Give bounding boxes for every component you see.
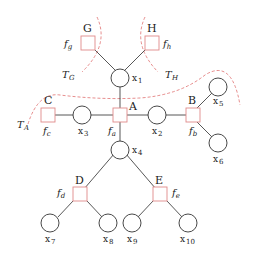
svg-text:A: A <box>128 100 138 113</box>
svg-text:5: 5 <box>219 100 223 108</box>
factor-node-h: H fh <box>145 22 171 51</box>
variable-node-x3: x 3 <box>73 106 91 138</box>
svg-text:fb: fb <box>188 125 198 138</box>
svg-text:H: H <box>171 74 179 82</box>
svg-text:fh: fh <box>162 38 171 51</box>
svg-text:x: x <box>103 234 108 244</box>
svg-text:x: x <box>180 234 185 244</box>
svg-text:fe: fe <box>171 187 180 200</box>
svg-text:C: C <box>44 94 52 107</box>
subtree-label-ta: T A <box>17 119 29 132</box>
svg-text:B: B <box>188 94 196 107</box>
svg-text:fc: fc <box>42 125 51 138</box>
svg-text:fa: fa <box>107 125 116 138</box>
svg-text:x: x <box>78 126 83 136</box>
variable-node-x9: x 9 <box>123 214 141 246</box>
svg-text:7: 7 <box>51 238 55 246</box>
factor-graph-diagram: G fg H fh C fc A fa B fb D fd E fe x 1 x <box>0 0 255 256</box>
svg-text:D: D <box>75 174 84 187</box>
svg-text:H: H <box>147 22 157 35</box>
svg-text:4: 4 <box>138 149 143 157</box>
svg-text:x: x <box>132 73 137 83</box>
svg-text:x: x <box>132 145 137 155</box>
svg-text:2: 2 <box>158 130 162 138</box>
svg-text:8: 8 <box>109 238 113 246</box>
variable-node-x8: x 8 <box>99 214 117 246</box>
factor-node-a: A fa <box>107 100 138 138</box>
svg-text:G: G <box>69 74 75 82</box>
variable-node-x10: x 10 <box>179 214 197 246</box>
svg-text:A: A <box>23 124 29 132</box>
svg-text:6: 6 <box>219 158 224 166</box>
variable-node-x1: x 1 <box>111 69 142 87</box>
factor-node-c: C fc <box>41 94 55 138</box>
svg-text:G: G <box>83 22 92 35</box>
variable-node-x7: x 7 <box>41 214 59 246</box>
factor-node-g: G fg <box>63 22 95 51</box>
factor-node-d: D fd <box>56 174 87 201</box>
svg-text:x: x <box>127 234 132 244</box>
variable-node-x6: x 6 <box>209 134 227 166</box>
subtree-label-tg: T G <box>62 69 75 82</box>
svg-text:x: x <box>213 96 218 106</box>
svg-text:10: 10 <box>186 238 195 246</box>
variable-node-x5: x 5 <box>209 78 227 108</box>
svg-text:fg: fg <box>63 38 73 51</box>
svg-text:E: E <box>155 174 163 187</box>
svg-text:x: x <box>152 126 157 136</box>
svg-text:x: x <box>45 234 50 244</box>
svg-text:x: x <box>213 154 218 164</box>
svg-text:3: 3 <box>84 130 88 138</box>
variable-node-x2: x 2 <box>148 106 166 138</box>
subtree-label-th: T H <box>165 69 179 82</box>
svg-text:9: 9 <box>133 238 137 246</box>
svg-text:fd: fd <box>56 187 66 200</box>
variable-node-x4: x 4 <box>111 141 143 159</box>
factor-node-e: E fe <box>153 174 180 201</box>
factor-node-b: B fb <box>186 94 200 138</box>
svg-text:1: 1 <box>138 77 142 85</box>
